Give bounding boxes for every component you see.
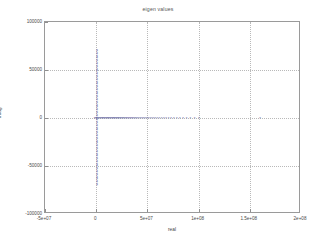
data-point-marker [141, 117, 144, 120]
data-point-marker [96, 135, 99, 138]
data-point-marker [122, 117, 125, 120]
x-tick-label: 5e+07 [140, 216, 153, 221]
data-point-marker [96, 141, 99, 144]
data-point-marker [96, 180, 99, 183]
data-point-marker [96, 65, 99, 68]
data-point-marker [97, 117, 100, 120]
data-point-marker [119, 117, 122, 120]
data-point-marker [102, 117, 105, 120]
data-point-marker [96, 91, 99, 94]
data-point-marker [96, 119, 99, 122]
y-tick-label: 50000 [29, 67, 42, 72]
data-point-marker [96, 76, 99, 79]
data-point-marker [96, 155, 99, 158]
data-point-marker [110, 117, 113, 120]
data-point-marker [96, 78, 99, 81]
data-point-marker [105, 117, 108, 120]
data-point-marker [127, 117, 130, 120]
data-point-marker [123, 117, 126, 120]
data-point-marker [137, 117, 140, 120]
data-point-marker [99, 117, 102, 120]
data-point-marker [96, 167, 99, 170]
data-point-marker [96, 183, 99, 186]
data-point-marker [96, 153, 99, 156]
data-point-marker [96, 178, 99, 181]
data-point-marker [96, 49, 99, 52]
data-point-marker [96, 57, 99, 60]
data-point-marker [116, 117, 119, 120]
data-point-marker [101, 117, 104, 120]
data-point-marker [259, 117, 262, 120]
data-point-marker [96, 137, 99, 140]
data-point-marker [158, 117, 161, 120]
data-point-marker [118, 117, 121, 120]
data-point-marker [96, 147, 99, 150]
data-point-marker [109, 117, 112, 120]
data-point-marker [96, 114, 99, 117]
data-point-marker [96, 184, 99, 187]
y-tick-label: -50000 [28, 163, 42, 168]
data-point-marker [104, 117, 107, 120]
data-point-marker [106, 117, 109, 120]
data-point-marker [136, 117, 139, 120]
data-point-marker [96, 115, 99, 118]
x-tick-label: 0 [94, 216, 97, 221]
data-point-marker [122, 117, 125, 120]
data-point-marker [96, 82, 99, 85]
data-point-marker [96, 95, 99, 98]
data-point-marker [131, 117, 134, 120]
data-point-marker [96, 124, 99, 127]
data-point-marker [156, 117, 159, 120]
data-point-marker [96, 168, 99, 171]
y-tick-label: 100000 [27, 19, 42, 24]
data-point-marker [138, 117, 141, 120]
data-point-marker [162, 117, 165, 120]
data-point-marker [95, 117, 98, 120]
data-point-marker [185, 117, 188, 120]
data-points-layer [45, 22, 299, 212]
data-point-marker [96, 122, 99, 125]
data-point-marker [96, 68, 99, 71]
data-point-marker [178, 117, 181, 120]
data-point-marker [96, 145, 99, 148]
x-tick-label: 2e+08 [294, 216, 307, 221]
data-point-marker [96, 88, 99, 91]
data-point-marker [96, 99, 99, 102]
data-point-marker [193, 117, 196, 120]
data-point-marker [120, 117, 123, 120]
data-point-marker [96, 157, 99, 160]
data-point-marker [96, 96, 99, 99]
data-point-marker [96, 55, 99, 58]
y-tick-label: -100000 [25, 211, 42, 216]
data-point-marker [96, 163, 99, 166]
data-point-marker [134, 117, 137, 120]
data-point-marker [96, 79, 99, 82]
data-point-marker [96, 148, 99, 151]
data-point-marker [96, 164, 99, 167]
data-point-marker [96, 142, 99, 145]
data-point-marker [96, 70, 99, 73]
data-point-marker [96, 111, 99, 114]
data-point-marker [96, 101, 99, 104]
data-point-marker [96, 165, 99, 168]
data-point-marker [112, 117, 115, 120]
data-point-marker [96, 59, 99, 62]
data-point-marker [96, 83, 99, 86]
data-point-marker [96, 129, 99, 132]
data-point-marker [170, 117, 173, 120]
data-point-marker [96, 63, 99, 66]
data-point-marker [100, 117, 103, 120]
data-point-marker [117, 117, 120, 120]
data-point-marker [96, 151, 99, 154]
x-tick-label: -5e+07 [37, 216, 51, 221]
x-tick-label: 1.5e+08 [240, 216, 257, 221]
chart-title: eigen values [0, 6, 316, 12]
data-point-marker [102, 117, 105, 120]
data-point-marker [150, 117, 153, 120]
chart-figure: eigen values -5e+0705e+071e+081.5e+082e+… [0, 0, 316, 243]
data-point-marker [96, 93, 99, 96]
data-point-marker [94, 117, 97, 120]
data-point-marker [96, 75, 99, 78]
data-point-marker [132, 117, 135, 120]
data-point-marker [97, 117, 100, 120]
